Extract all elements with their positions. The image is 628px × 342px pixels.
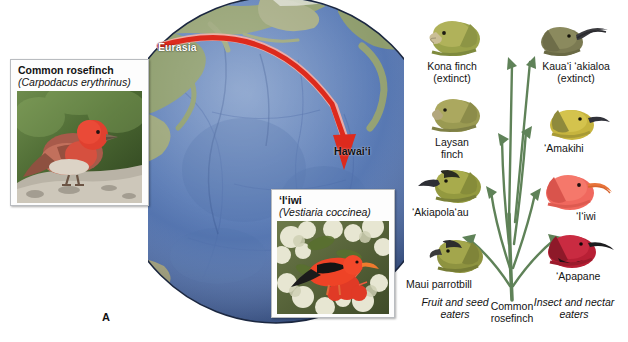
common-rosefinch-root-label: Common rosefinch [466, 300, 558, 325]
laysan-finch-label: Laysan finch [410, 136, 494, 161]
inset-common-name: ‘I‘iwi [272, 190, 394, 206]
akiapolaau-head [414, 164, 484, 208]
kauai-akialoa-name: Kaua‘i ‘akialoa [524, 60, 628, 72]
iiwi-photo [277, 221, 389, 314]
common-rosefinch-photo [17, 91, 142, 203]
root-line2: rosefinch [466, 312, 558, 324]
figure-adaptive-radiation-hawaiian-honeycreepers: Eurasia Hawai‘i Common rosefinch (Carpod… [0, 0, 628, 342]
kona-finch-status: (extinct) [410, 72, 494, 84]
maui-parrotbill-label: Maui parrotbill [406, 278, 472, 290]
panel-a-globe: Eurasia Hawai‘i Common rosefinch (Carpod… [0, 0, 400, 342]
root-line1: Common [466, 300, 558, 312]
kauai-akialoa-label: Kaua‘i ‘akialoa (extinct) [524, 60, 628, 85]
label-eurasia: Eurasia [158, 41, 197, 53]
kauai-akialoa-head [536, 14, 616, 62]
inset-scientific-name: (Vestiaria coccinea) [272, 206, 394, 221]
laysan-finch-name2: finch [410, 148, 494, 160]
kauai-akialoa-status: (extinct) [524, 72, 628, 84]
iiwi-inset: ‘I‘iwi (Vestiaria coccinea) [271, 189, 395, 318]
iiwi-head-label: ‘I‘iwi [576, 210, 596, 222]
kona-finch-head [420, 16, 482, 62]
common-rosefinch-inset: Common rosefinch (Carpodacus erythrinus) [10, 59, 149, 206]
kona-finch-name: Kona finch [410, 60, 494, 72]
amakihi-label: ‘Amakihi [544, 142, 584, 154]
laysan-finch-head [422, 94, 482, 138]
inset-common-name: Common rosefinch [11, 60, 148, 76]
apapane-head [544, 228, 620, 274]
iiwi-head [542, 168, 620, 216]
inset-scientific-name: (Carpodacus erythrinus) [11, 76, 148, 91]
apapane-label: ‘Apapane [556, 270, 600, 282]
laysan-finch-name: Laysan [410, 136, 494, 148]
panel-a-letter: A [102, 311, 110, 323]
maui-parrotbill-head [422, 234, 486, 278]
label-hawaii: Hawai‘i [334, 145, 371, 157]
panel-b-radiation: Kona finch (extinct) Laysan finch [396, 0, 628, 342]
kona-finch-label: Kona finch (extinct) [410, 60, 494, 85]
amakihi-head [546, 102, 616, 146]
akiapolaau-label: ‘Akiapola‘au [412, 206, 469, 218]
